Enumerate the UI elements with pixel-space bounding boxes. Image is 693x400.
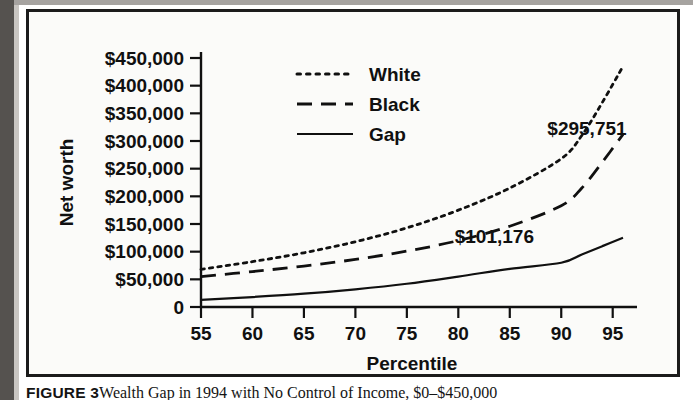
scanned-page: 0$50,000$100,000$150,000$200,000$250,000… [0, 0, 693, 400]
x-tick-label: 90 [551, 323, 572, 344]
y-axis-tick-labels: 0$50,000$100,000$150,000$200,000$250,000… [105, 48, 184, 318]
x-axis-ticks [201, 307, 613, 318]
legend-entry-black: Black [297, 94, 420, 115]
y-tick-label: $150,000 [105, 214, 184, 235]
figure-caption-text: Wealth Gap in 1994 with No Control of In… [99, 384, 497, 400]
y-tick-label: $250,000 [105, 158, 184, 179]
x-axis-title: Percentile [367, 353, 458, 374]
data-annotation: $101,176 [455, 226, 534, 247]
x-tick-label: 80 [448, 323, 469, 344]
net-worth-by-percentile-chart: 0$50,000$100,000$150,000$200,000$250,000… [29, 12, 677, 374]
x-tick-label: 65 [293, 323, 315, 344]
y-tick-label: $100,000 [105, 241, 184, 262]
figure-caption: FIGURE 3Wealth Gap in 1994 with No Contr… [26, 384, 686, 400]
y-tick-label: 0 [173, 297, 184, 318]
legend-label-black: Black [369, 94, 420, 115]
y-axis-ticks [190, 58, 201, 307]
y-tick-label: $400,000 [105, 75, 184, 96]
data-annotation: $295,751 [547, 118, 627, 139]
x-axis-tick-labels: 556065707580859095 [190, 323, 623, 344]
scan-gutter-gradient [14, 0, 19, 400]
legend-label-gap: Gap [369, 124, 406, 145]
figure-frame: 0$50,000$100,000$150,000$200,000$250,000… [26, 9, 680, 377]
y-tick-label: $450,000 [105, 48, 184, 69]
x-tick-label: 75 [396, 323, 418, 344]
x-tick-label: 85 [499, 323, 521, 344]
legend-entry-gap: Gap [297, 124, 406, 145]
legend-entry-white: White [297, 64, 421, 85]
x-tick-label: 55 [190, 323, 212, 344]
legend-label-white: White [369, 64, 421, 85]
x-tick-label: 70 [345, 323, 366, 344]
series-line-black [201, 134, 623, 276]
chart-legend: WhiteBlackGap [297, 64, 421, 145]
y-tick-label: $50,000 [115, 269, 184, 290]
y-tick-label: $200,000 [105, 186, 184, 207]
scan-gutter-shadow [0, 0, 14, 400]
data-annotations: $295,751$101,176 [455, 118, 627, 247]
x-tick-label: 60 [242, 323, 263, 344]
figure-caption-label: FIGURE 3 [26, 384, 99, 400]
y-tick-label: $300,000 [105, 131, 184, 152]
scan-top-edge [14, 0, 693, 5]
series-line-gap [201, 238, 623, 300]
y-axis-title: Net worth [56, 139, 77, 227]
x-tick-label: 95 [602, 323, 624, 344]
y-tick-label: $350,000 [105, 103, 184, 124]
